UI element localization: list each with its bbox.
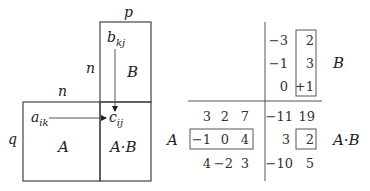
cell: 4	[203, 156, 211, 171]
cell: 2	[306, 132, 314, 147]
cell: 3	[306, 56, 314, 71]
cell: −1	[269, 56, 288, 71]
dim-label-n-top: n	[58, 83, 67, 99]
cell: 4	[241, 132, 249, 147]
cell: 3	[282, 132, 290, 147]
matrix-B: −3 2 −1 3 0 +1	[269, 33, 314, 94]
cell: 5	[306, 156, 314, 171]
cell: 3	[203, 109, 211, 124]
element-b: bkj	[107, 29, 125, 48]
element-a: aik	[31, 109, 49, 128]
cell: −1	[192, 132, 211, 147]
block-label-AB: A·B	[108, 138, 137, 156]
cell: +1	[295, 79, 314, 94]
cell: 3	[241, 156, 249, 171]
numeric-example: −3 2 −1 3 0 +1 3 2 7 −1 0 4 4 −2 3 −11 1…	[165, 22, 360, 181]
cell: −2	[214, 156, 233, 171]
matrix-A: 3 2 7 −1 0 4 4 −2 3	[192, 109, 249, 171]
cell: 0	[221, 132, 229, 147]
block-label-A: A	[56, 138, 69, 156]
dim-label-n-left: n	[86, 60, 95, 76]
label-A: A	[165, 131, 178, 149]
element-c: cij	[109, 109, 123, 128]
cell: 0	[280, 79, 288, 94]
label-AB: A·B	[331, 131, 360, 149]
dim-label-p: p	[124, 4, 133, 20]
matrix-AB: −11 19 3 2 −10 5	[266, 109, 315, 171]
cell: 19	[298, 109, 315, 124]
schematic-diagram: p n n q A B A·B bkj aik cij	[8, 4, 151, 181]
cell: −3	[269, 33, 288, 48]
dim-label-q: q	[8, 131, 17, 147]
cell: 7	[241, 109, 249, 124]
label-B: B	[332, 54, 344, 72]
cell: 2	[221, 109, 229, 124]
matrix-multiplication-figure: p n n q A B A·B bkj aik cij −3 2	[0, 0, 370, 191]
cell: −11	[266, 109, 293, 124]
cell: 2	[306, 33, 314, 48]
cell: −10	[266, 156, 293, 171]
block-label-B: B	[126, 63, 138, 81]
